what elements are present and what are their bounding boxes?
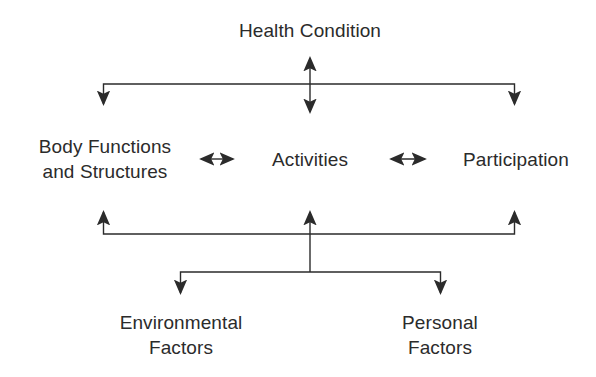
node-participation-line-1: Participation <box>463 147 569 172</box>
node-body-functions-line-2: and Structures <box>39 159 171 184</box>
node-environmental-line-1: Environmental <box>120 310 243 335</box>
diagram-connectors-layer <box>0 0 596 377</box>
node-personal-line-1: Personal <box>402 310 478 335</box>
node-activities: Activities <box>272 147 348 172</box>
node-activities-line-1: Activities <box>272 147 348 172</box>
node-environmental-line-2: Factors <box>120 335 243 360</box>
connector-bus-to-personal <box>310 272 441 293</box>
node-body-functions-and-structures: Body Functions and Structures <box>39 134 171 184</box>
node-environmental-factors: Environmental Factors <box>120 310 243 360</box>
connector-health-bus-left <box>104 84 311 104</box>
connector-factors-bus-left <box>104 212 311 234</box>
connector-bus-to-environmental <box>181 272 311 293</box>
connector-health-bus-right <box>310 84 515 104</box>
node-body-functions-line-1: Body Functions <box>39 134 171 159</box>
node-health-condition-line-1: Health Condition <box>239 18 381 43</box>
connector-factors-bus-right <box>310 212 515 234</box>
node-participation: Participation <box>463 147 569 172</box>
node-personal-line-2: Factors <box>402 335 478 360</box>
node-personal-factors: Personal Factors <box>402 310 478 360</box>
node-health-condition: Health Condition <box>239 18 381 43</box>
icf-diagram: Health Condition Body Functions and Stru… <box>0 0 596 377</box>
